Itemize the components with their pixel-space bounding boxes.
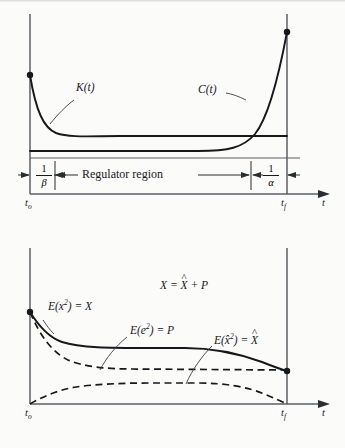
curve-label-E-x2: E(x2) = X — [48, 298, 92, 312]
label-rhs-hat-term: ^X — [251, 334, 258, 346]
curve-K — [30, 75, 287, 136]
bottom-panel-plot — [0, 224, 345, 448]
curve-E-xhat2 — [30, 383, 287, 404]
identity-equals: = — [170, 279, 178, 291]
covariance-panel: X = ^X + P E(x2) = X E(e2) = P E(x̂2) = … — [0, 224, 345, 448]
identity-rhs-term: P — [201, 279, 208, 291]
label-mid: ) = — [68, 300, 85, 312]
label-lhs: E(e — [130, 324, 146, 336]
hat-accent: ^ — [252, 327, 257, 338]
curve-label-E-xhat2: E(x̂2) = ^X — [214, 332, 258, 346]
hat-accent: ^ — [181, 272, 186, 283]
bottom-x-axis-label: t — [322, 408, 325, 419]
label-rhs: P — [167, 324, 174, 336]
axis-tick-t-f: tf — [281, 198, 286, 211]
regulator-region-label: Regulator region — [82, 168, 163, 180]
curve-label-K: K(t) — [76, 82, 95, 94]
fraction-numerator: 1 — [36, 164, 52, 175]
axis-tick-t-o: to — [25, 198, 32, 211]
fraction-one-over-beta: 1 β — [36, 164, 52, 188]
arrow-region-right-head — [241, 172, 250, 178]
fraction-denominator: β — [36, 177, 52, 188]
leader-line-E-e2 — [100, 337, 127, 370]
leader-line-E-xhat2 — [186, 346, 212, 384]
figure-page: K(t) C(t) 1 β Regulator region 1 α to tf… — [0, 0, 345, 448]
label-lhs: E(x — [48, 300, 64, 312]
fraction-one-over-alpha: 1 α — [263, 164, 279, 188]
leader-line-C — [226, 93, 246, 100]
label-rhs: X — [85, 300, 92, 312]
arrow-alpha-right-head — [287, 172, 296, 178]
arrow-alpha-left-head — [252, 172, 261, 178]
endpoint-dot-K-start — [27, 72, 33, 78]
endpoint-dot-start — [27, 309, 33, 315]
label-lhs: E(x̂ — [214, 334, 230, 346]
tick-subscript: f — [284, 202, 286, 211]
tick-subscript: o — [28, 202, 32, 211]
curve-C — [30, 32, 287, 151]
label-mid: ) = — [150, 324, 167, 336]
arrow-beta-left-head — [21, 172, 30, 178]
riccati-gain-panel: K(t) C(t) 1 β Regulator region 1 α to tf… — [0, 0, 345, 224]
identity-lhs: X — [160, 279, 167, 291]
fraction-numerator: 1 — [263, 164, 279, 175]
top-x-axis-label: t — [322, 198, 325, 209]
label-mid: ) = — [234, 334, 251, 346]
tick-subscript: f — [284, 412, 286, 421]
axis-tick-t-o: to — [25, 408, 32, 421]
endpoint-dot-end — [284, 368, 290, 374]
endpoint-dot-C-end — [284, 29, 290, 35]
curve-label-E-e2: E(e2) = P — [130, 322, 174, 336]
leader-line-K — [50, 100, 74, 124]
curve-label-C: C(t) — [198, 84, 217, 96]
top-panel-plot — [0, 0, 345, 224]
fraction-denominator: α — [263, 177, 279, 188]
identity-rhs-hat-term: ^X — [181, 279, 188, 291]
tick-subscript: o — [28, 412, 32, 421]
identity-equation: X = ^X + P — [160, 279, 208, 291]
axis-tick-t-f: tf — [281, 408, 286, 421]
